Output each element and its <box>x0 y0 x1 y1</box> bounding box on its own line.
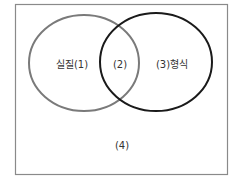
venn-diagram: 실질(1) (2) (3)형식 (4) <box>0 0 238 187</box>
label-outside: (4) <box>115 140 129 151</box>
label-right-only: (3)형식 <box>156 59 188 70</box>
label-left-only: 실질(1) <box>56 59 88 70</box>
label-intersection: (2) <box>113 59 127 70</box>
